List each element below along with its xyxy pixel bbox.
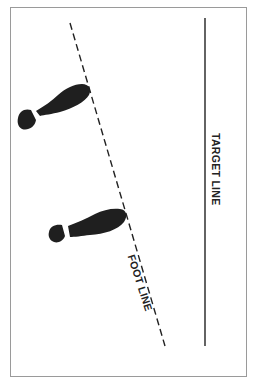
lower-shoe-print-icon — [49, 209, 127, 243]
target-line-label: TARGET LINE — [210, 133, 222, 206]
upper-shoe-print-icon — [18, 84, 91, 130]
